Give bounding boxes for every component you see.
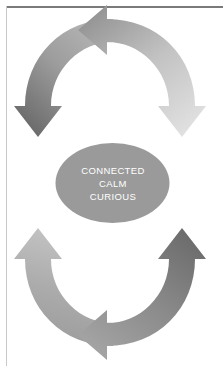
lower-right-arrow xyxy=(78,228,206,360)
center-label-ellipse xyxy=(56,143,170,223)
page-canvas: CONNECTED CALM CURIOUS xyxy=(0,0,223,366)
dual-cycle-arrow-diagram: CONNECTED CALM CURIOUS xyxy=(0,0,223,366)
cycle-diagram-svg xyxy=(0,0,223,366)
upper-right-arrow xyxy=(78,5,206,137)
